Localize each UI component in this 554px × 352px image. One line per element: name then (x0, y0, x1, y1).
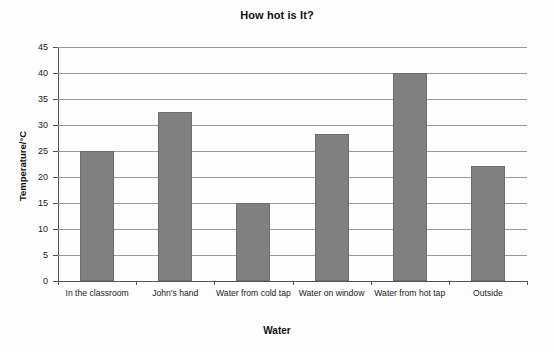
bar (315, 134, 349, 281)
gridline (58, 229, 527, 230)
chart-title: How hot is It? (0, 9, 554, 21)
y-axis-tick-label: 45 (14, 42, 48, 52)
x-axis-tick-mark (527, 281, 528, 285)
bar (80, 151, 114, 281)
gridline (58, 177, 527, 178)
gridline (58, 255, 527, 256)
y-axis-tick-label: 20 (14, 172, 48, 182)
x-axis-tick-label: John's hand (136, 288, 214, 299)
bar (236, 203, 270, 281)
x-axis-tick-mark (449, 281, 450, 285)
gridline (58, 73, 527, 74)
bar (471, 166, 505, 281)
x-axis-tick-mark (58, 281, 59, 285)
plot-area (58, 47, 527, 281)
gridline (58, 125, 527, 126)
x-axis-tick-mark (214, 281, 215, 285)
y-axis-tick-label: 0 (14, 276, 48, 286)
x-axis-title: Water (0, 325, 554, 336)
bar (158, 112, 192, 281)
gridline (58, 203, 527, 204)
gridline (58, 151, 527, 152)
y-axis-tick-label: 5 (14, 250, 48, 260)
x-axis-tick-mark (371, 281, 372, 285)
x-axis-tick-mark (293, 281, 294, 285)
y-axis-tick-label: 25 (14, 146, 48, 156)
y-axis-tick-label: 35 (14, 94, 48, 104)
bar-chart: How hot is It? Temperature/°C 4540353025… (0, 0, 554, 352)
gridline (58, 47, 527, 48)
x-axis-tick-label: Water on window (293, 288, 371, 299)
x-axis-tick-label: In the classroom (58, 288, 136, 299)
x-axis-tick-label: Water from hot tap (371, 288, 449, 299)
x-axis-tick-label: Outside (449, 288, 527, 299)
y-axis-tick-label: 40 (14, 68, 48, 78)
x-axis-tick-label: Water from cold tap (214, 288, 292, 299)
x-axis-tick-mark (136, 281, 137, 285)
bar (393, 73, 427, 281)
y-axis-tick-label: 15 (14, 198, 48, 208)
y-axis-tick-label: 30 (14, 120, 48, 130)
y-axis-title: Temperature/°C (17, 96, 31, 236)
y-axis-tick-label: 10 (14, 224, 48, 234)
gridline (58, 99, 527, 100)
